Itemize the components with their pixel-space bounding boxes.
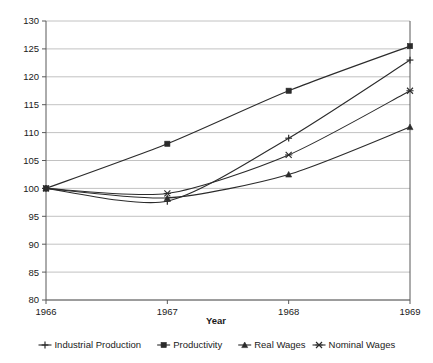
legend-label: Industrial Production xyxy=(54,339,141,350)
legend-label: Real Wages xyxy=(254,339,306,350)
x-axis-title: Year xyxy=(206,315,226,326)
y-tick-label: 105 xyxy=(23,155,39,166)
legend-entry-industrial-production[interactable]: Industrial Production xyxy=(38,339,141,350)
x-tick-label: 1967 xyxy=(157,306,178,317)
line-chart: 80859095100105110115120125130 1966196719… xyxy=(0,0,433,363)
data-point-marker-square xyxy=(286,88,291,93)
x-tick-label: 1968 xyxy=(278,306,299,317)
y-tick-label: 80 xyxy=(28,294,39,305)
data-point-marker-square xyxy=(161,342,166,347)
y-tick-label: 115 xyxy=(24,99,39,110)
y-tick-label: 125 xyxy=(23,43,39,54)
x-tick-label: 1969 xyxy=(399,306,420,317)
y-tick-label: 85 xyxy=(28,267,39,278)
legend-label: Nominal Wages xyxy=(329,339,396,350)
chart-legend: Industrial ProductionProductivityReal Wa… xyxy=(38,339,395,350)
y-tick-label: 100 xyxy=(23,183,39,194)
legend-label: Productivity xyxy=(173,339,222,350)
data-point-marker-square xyxy=(407,44,412,49)
y-tick-label: 120 xyxy=(23,71,39,82)
x-tick-label: 1966 xyxy=(35,306,56,317)
y-tick-label: 110 xyxy=(24,127,39,138)
y-tick-label: 95 xyxy=(28,211,39,222)
data-point-marker-square xyxy=(165,141,170,146)
chart-canvas: 80859095100105110115120125130 1966196719… xyxy=(0,0,433,363)
y-tick-label: 90 xyxy=(28,239,39,250)
y-tick-label: 130 xyxy=(23,15,39,26)
